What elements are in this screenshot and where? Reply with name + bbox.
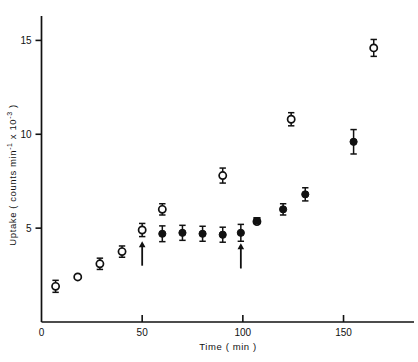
data-point-open-circle [118,248,125,255]
x-axis-title: Time ( min ) [199,341,257,352]
y-axis-title-exponent-2: -3 [6,111,13,118]
data-point-open-circle [52,283,59,290]
plot-background [0,0,418,362]
y-axis-title-middle: x 10 [7,119,18,143]
data-point-open-circle [288,116,295,123]
x-tick-label: 50 [137,327,149,338]
data-point-open-circle [139,226,146,233]
data-point-filled-circle [159,230,166,237]
x-tick-label: 0 [39,327,45,338]
data-point-filled-circle [280,206,287,213]
x-tick-label: 150 [335,327,352,338]
data-point-open-circle [74,273,81,280]
data-point-filled-square [253,217,260,224]
data-point-open-circle [219,172,226,179]
data-point-filled-circle [219,231,226,238]
y-axis-title: Uptake ( counts min-1 x 10-3 ) [6,104,18,245]
y-tick-label: 5 [26,223,32,234]
y-tick-label: 15 [20,35,32,46]
data-point-filled-circle [350,138,357,145]
data-point-filled-circle [302,191,309,198]
data-point-open-circle [96,260,103,267]
scatter-plot-svg: 51015 050100150 Time ( min ) Uptake ( co… [0,0,418,362]
y-axis-title-suffix: ) [7,104,18,111]
data-point-filled-circle [237,229,244,236]
x-tick-label: 100 [235,327,252,338]
series-filled-square [253,217,260,224]
chart-figure: 51015 050100150 Time ( min ) Uptake ( co… [0,0,418,362]
data-point-filled-circle [199,230,206,237]
data-point-filled-circle [179,229,186,236]
y-tick-label: 10 [20,129,32,140]
data-point-open-circle [370,44,377,51]
data-point-open-circle [159,206,166,213]
y-axis-title-prefix: Uptake ( counts min [7,150,18,246]
y-axis-title-exponent-1: -1 [6,142,13,149]
